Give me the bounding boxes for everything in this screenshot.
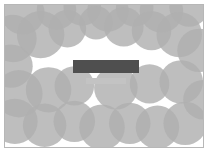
- circle-scatter-canvas: [5, 5, 203, 147]
- circle-group: [5, 5, 203, 147]
- figure-root: [0, 0, 208, 152]
- data-circle: [55, 66, 95, 105]
- figure-frame: [4, 4, 204, 148]
